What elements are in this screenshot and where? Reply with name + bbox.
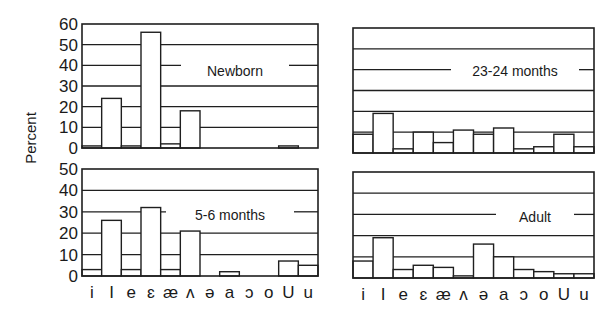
bar-o <box>534 272 554 278</box>
bar-æ <box>433 143 453 153</box>
panel-title: Adult <box>519 209 551 225</box>
bar-I <box>373 113 393 153</box>
panel-newborn: Newborn0102030405060 <box>59 15 318 158</box>
panel-5-6-months: 5-6 months01020304050iIeɛæʌəaɔoUu <box>59 160 318 302</box>
x-tick-label: e <box>126 283 135 302</box>
bar-o <box>534 147 554 153</box>
bar-e <box>393 270 413 278</box>
y-tick-label: 20 <box>59 98 78 117</box>
y-tick-label: 0 <box>69 139 78 158</box>
x-tick-label: i <box>361 285 365 304</box>
bar-ɔ <box>514 270 534 278</box>
bar-æ <box>433 267 453 278</box>
x-tick-label: u <box>303 283 312 302</box>
bar-I <box>102 98 122 148</box>
y-tick-label: 50 <box>59 36 78 55</box>
y-tick-label: 30 <box>59 77 78 96</box>
x-tick-label: o <box>264 283 273 302</box>
bar-I <box>373 238 393 278</box>
bar-ə <box>474 134 494 153</box>
x-tick-label: ɔ <box>245 283 254 302</box>
bar-ɛ <box>141 208 161 276</box>
panel-title: 23-24 months <box>472 63 558 79</box>
bar-a <box>494 128 514 153</box>
bar-ʌ <box>453 130 473 153</box>
bar-ʌ <box>180 111 200 148</box>
bar-ɛ <box>413 265 433 278</box>
panel-adult: AdultiIeɛæʌəaɔoUu <box>353 172 594 304</box>
x-tick-label: U <box>282 283 294 302</box>
x-tick-label: o <box>539 285 548 304</box>
bar-ə <box>474 244 494 278</box>
x-tick-label: æ <box>436 285 451 304</box>
y-tick-label: 50 <box>59 160 78 179</box>
x-tick-label: ə <box>479 285 488 304</box>
panel-23-24-months: 23-24 months <box>353 28 594 153</box>
x-tick-label: u <box>579 285 588 304</box>
y-tick-label: 0 <box>69 267 78 286</box>
bar-ɛ <box>413 132 433 153</box>
bar-U <box>554 134 574 153</box>
x-tick-label: a <box>499 285 509 304</box>
x-tick-label: ʌ <box>459 285 468 304</box>
x-tick-label: i <box>90 283 94 302</box>
x-tick-label: U <box>558 285 570 304</box>
bar-i <box>353 134 373 153</box>
y-tick-label: 60 <box>59 15 78 34</box>
y-tick-label: 10 <box>59 118 78 137</box>
x-tick-label: I <box>381 285 386 304</box>
bar-U <box>279 261 299 276</box>
chart-canvas: Newborn010203040506023-24 months5-6 mont… <box>0 0 616 313</box>
x-tick-label: ɛ <box>147 283 155 302</box>
x-tick-label: ʌ <box>186 283 195 302</box>
bar-ʌ <box>180 231 200 276</box>
bar-ɛ <box>141 32 161 148</box>
bar-æ <box>161 270 181 276</box>
y-tick-label: 10 <box>59 246 78 265</box>
bar-u <box>574 147 594 153</box>
x-tick-label: ɛ <box>419 285 427 304</box>
x-tick-label: æ <box>163 283 178 302</box>
bar-u <box>298 265 318 276</box>
bar-I <box>102 220 122 276</box>
bar-a <box>494 257 514 278</box>
x-tick-label: ə <box>205 283 214 302</box>
y-tick-label: 40 <box>59 181 78 200</box>
panel-title: Newborn <box>207 63 263 79</box>
x-tick-label: ɔ <box>519 285 528 304</box>
x-tick-label: e <box>398 285 407 304</box>
x-tick-label: I <box>109 283 114 302</box>
y-tick-label: 30 <box>59 203 78 222</box>
bar-i <box>82 270 102 276</box>
panel-title: 5-6 months <box>195 207 265 223</box>
x-tick-label: a <box>225 283 235 302</box>
bar-e <box>121 270 141 276</box>
bar-i <box>353 261 373 278</box>
y-tick-label: 20 <box>59 224 78 243</box>
y-tick-label: 40 <box>59 56 78 75</box>
